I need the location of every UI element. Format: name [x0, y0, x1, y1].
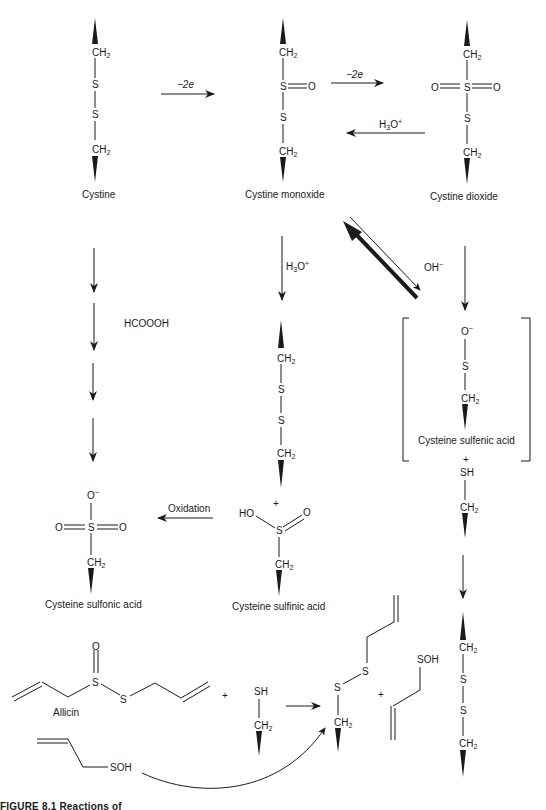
cysteine-sulfonic-acid-structure: O− O S O CH2 Cysteine sulfonic acid	[45, 489, 142, 610]
wedge-down-icon	[88, 568, 94, 594]
svg-text:S: S	[462, 361, 469, 372]
svg-text:CH2: CH2	[334, 717, 352, 729]
svg-text:O−: O−	[461, 325, 473, 337]
svg-text:+: +	[378, 689, 384, 700]
wedge-down-icon	[280, 157, 286, 182]
svg-text:S: S	[334, 682, 341, 693]
wedge-up-icon	[280, 18, 286, 44]
svg-text:+: +	[273, 498, 279, 509]
svg-text:−2e: −2e	[177, 79, 194, 90]
svg-text:S: S	[464, 113, 471, 124]
svg-text:HCOOOH: HCOOOH	[124, 318, 169, 329]
curved-arrow-icon	[142, 728, 325, 788]
wedge-down-icon	[276, 570, 282, 596]
svg-text:+: +	[222, 690, 228, 701]
svg-text:S: S	[464, 82, 471, 93]
svg-text:O: O	[92, 641, 100, 652]
label-cystine: Cystine	[82, 189, 116, 200]
svg-text:CH2: CH2	[254, 720, 272, 732]
svg-text:O: O	[55, 522, 63, 533]
label-cysteine-sulfenic-acid: Cysteine sulfenic acid	[418, 435, 515, 446]
svg-text:CH2: CH2	[459, 738, 477, 750]
wedge-down-icon	[460, 750, 466, 777]
allyl-soh-reactant: SOH	[37, 739, 132, 773]
svg-text:CH2: CH2	[277, 353, 295, 365]
svg-text:S: S	[120, 694, 127, 705]
mixed-disulfide-structure: S S CH2	[334, 595, 398, 752]
svg-text:S: S	[92, 79, 99, 90]
svg-text:CH2: CH2	[279, 47, 297, 59]
label-cysteine-sulfonic-acid: Cysteine sulfonic acid	[45, 599, 142, 610]
cystine-bottom-structure: CH2 S S CH2	[459, 612, 477, 777]
svg-text:O: O	[431, 82, 439, 93]
reaction-scheme: CH2 S S CH2 Cystine −2e CH2 S O S CH2 Cy…	[0, 0, 546, 810]
cysteine-sulfinic-acid-structure: + HO S O CH2 Cysteine sulfinic acid	[232, 498, 325, 612]
svg-text:S: S	[92, 109, 99, 120]
wedge-down-icon	[462, 513, 468, 538]
wedge-up-icon	[92, 18, 98, 44]
svg-text:S: S	[460, 705, 467, 716]
wedge-down-icon	[256, 731, 262, 756]
svg-text:O: O	[119, 522, 127, 533]
cysteine-structure: SH CH2	[460, 467, 478, 538]
svg-text:O: O	[308, 81, 316, 92]
svg-text:SH: SH	[254, 686, 268, 697]
svg-text:HO: HO	[239, 508, 254, 519]
label-cystine-monoxide: Cystine monoxide	[245, 189, 325, 200]
allyl-sulfenic-acid-structure: SOH	[391, 654, 439, 740]
wedge-down-icon	[335, 728, 341, 752]
svg-text:CH2: CH2	[279, 146, 297, 158]
svg-text:+: +	[463, 454, 469, 465]
svg-text:CH2: CH2	[275, 559, 293, 571]
cystine-middle-structure: CH2 S S CH2	[277, 320, 295, 488]
wedge-down-icon	[464, 158, 470, 184]
cysteine-bottom-structure: SH CH2	[254, 686, 272, 756]
svg-text:CH2: CH2	[459, 642, 477, 654]
svg-text:CH2: CH2	[460, 502, 478, 514]
svg-text:CH2: CH2	[461, 393, 479, 405]
equilibrium-arrows: OH−	[343, 217, 443, 298]
label-allicin: Allicin	[53, 707, 79, 718]
wedge-up-icon	[460, 612, 466, 640]
cystine-structure: CH2 S S CH2 Cystine	[82, 18, 116, 200]
svg-text:S: S	[88, 522, 95, 533]
svg-text:SOH: SOH	[110, 762, 132, 773]
svg-text:S: S	[362, 666, 369, 677]
label-cystine-dioxide: Cystine dioxide	[430, 191, 498, 202]
svg-text:−2e: −2e	[346, 69, 363, 80]
wedge-up-icon	[464, 20, 470, 46]
cystine-monoxide-structure: CH2 S O S CH2 Cystine monoxide	[245, 18, 325, 200]
svg-text:S: S	[276, 525, 283, 536]
svg-text:H3O+: H3O+	[286, 260, 309, 273]
svg-text:S: S	[278, 415, 285, 426]
svg-text:CH2: CH2	[87, 557, 105, 569]
svg-text:SOH: SOH	[417, 654, 439, 665]
svg-text:CH2: CH2	[463, 147, 481, 159]
svg-text:SH: SH	[460, 467, 474, 478]
wedge-down-icon	[462, 404, 468, 430]
allicin-structure: S O S Allicin	[12, 641, 210, 718]
hcoooh-arrow-sequence: HCOOOH	[93, 248, 169, 461]
svg-text:S: S	[460, 674, 467, 685]
figure-caption: FIGURE 8.1 Reactions of	[0, 801, 122, 810]
svg-text:CH2: CH2	[277, 448, 295, 460]
wedge-down-icon	[92, 156, 98, 182]
sulfenic-acid-bracket: O− S CH2 Cysteine sulfenic acid	[403, 318, 530, 461]
svg-text:O: O	[493, 82, 501, 93]
svg-text:S: S	[92, 677, 99, 688]
svg-text:S: S	[280, 112, 287, 123]
svg-text:S: S	[280, 81, 287, 92]
wedge-up-icon	[278, 320, 284, 348]
svg-text:H3O+: H3O+	[379, 118, 402, 131]
label-cysteine-sulfinic-acid: Cysteine sulfinic acid	[232, 601, 325, 612]
ch2-label: CH2	[92, 144, 110, 156]
ch2-label: CH2	[92, 47, 110, 59]
svg-text:Oxidation: Oxidation	[168, 503, 210, 514]
cystine-dioxide-structure: CH2 O S O S CH2 Cystine dioxide	[430, 20, 501, 202]
svg-text:S: S	[278, 384, 285, 395]
svg-text:CH2: CH2	[463, 49, 481, 61]
svg-text:O: O	[303, 507, 311, 518]
svg-text:O−: O−	[87, 489, 99, 501]
wedge-down-icon	[278, 460, 284, 488]
svg-text:OH−: OH−	[424, 261, 443, 273]
